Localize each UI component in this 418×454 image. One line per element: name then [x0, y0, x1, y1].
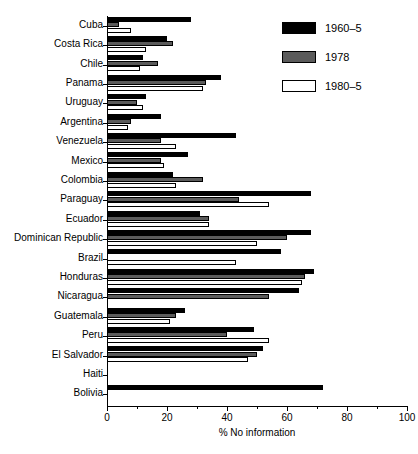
bar-group — [107, 94, 407, 113]
bar — [107, 172, 173, 177]
legend-item: 1978 — [282, 47, 362, 67]
x-minor-tick — [257, 406, 258, 409]
bar — [107, 61, 158, 66]
x-tick — [347, 406, 348, 411]
legend-swatch-icon — [282, 51, 316, 63]
bar — [107, 222, 209, 227]
bar — [107, 280, 302, 285]
chart-container: 020406080100 CubaCosta RicaChilePanamaUr… — [0, 0, 418, 454]
bar-group — [107, 16, 407, 35]
bar-group — [107, 210, 407, 229]
legend-swatch-icon — [282, 22, 316, 34]
bar — [107, 75, 221, 80]
bar — [107, 17, 191, 22]
bar — [107, 86, 203, 91]
y-axis-label-peru: Peru — [0, 329, 103, 340]
bar — [107, 274, 305, 279]
bar-group — [107, 288, 407, 307]
bar-group — [107, 55, 407, 74]
bar-group — [107, 346, 407, 365]
legend-label: 1980–5 — [325, 80, 362, 92]
x-tick-label: 0 — [87, 412, 127, 423]
x-tick-label: 80 — [327, 412, 367, 423]
legend-label: 1978 — [325, 51, 349, 63]
bar — [107, 235, 287, 240]
chart-legend: 1960–519781980–5 — [282, 18, 362, 105]
x-tick — [407, 406, 408, 411]
bar — [107, 327, 254, 332]
bar — [107, 105, 143, 110]
bar-group — [107, 385, 407, 404]
y-axis-label-nicaragua: Nicaragua — [0, 290, 103, 301]
x-minor-tick — [137, 406, 138, 409]
bar — [107, 338, 269, 343]
bar — [107, 158, 161, 163]
y-axis-label-costa-rica: Costa Rica — [0, 38, 103, 49]
bar — [107, 357, 248, 362]
y-axis-label-cuba: Cuba — [0, 19, 103, 30]
bar — [107, 269, 314, 274]
bar-group — [107, 171, 407, 190]
bar — [107, 144, 176, 149]
bar — [107, 100, 137, 105]
bar-group — [107, 229, 407, 248]
bar — [107, 216, 209, 221]
bar — [107, 66, 140, 71]
y-axis-label-chile: Chile — [0, 58, 103, 69]
bar — [107, 152, 188, 157]
y-axis-label-dominican-republic: Dominican Republic — [0, 232, 103, 243]
bar — [107, 319, 170, 324]
bar — [107, 125, 128, 130]
plot-area — [107, 16, 407, 404]
bar — [107, 133, 236, 138]
bar — [107, 94, 146, 99]
y-axis-label-venezuela: Venezuela — [0, 135, 103, 146]
bar-group — [107, 152, 407, 171]
bar-group — [107, 35, 407, 54]
bar — [107, 230, 311, 235]
x-tick — [287, 406, 288, 411]
bar — [107, 55, 143, 60]
bar — [107, 163, 164, 168]
bar — [107, 249, 281, 254]
y-axis-label-mexico: Mexico — [0, 155, 103, 166]
bar-group — [107, 132, 407, 151]
legend-swatch-icon — [282, 80, 316, 92]
bar-group — [107, 249, 407, 268]
bar — [107, 138, 161, 143]
y-axis-label-ecuador: Ecuador — [0, 213, 103, 224]
bar-group — [107, 113, 407, 132]
y-axis-label-bolivia: Bolivia — [0, 387, 103, 398]
y-axis-label-panama: Panama — [0, 77, 103, 88]
bar-group — [107, 74, 407, 93]
x-tick-label: 60 — [267, 412, 307, 423]
bar — [107, 241, 257, 246]
bar-group — [107, 326, 407, 345]
y-axis-label-colombia: Colombia — [0, 174, 103, 185]
y-axis-label-uruguay: Uruguay — [0, 96, 103, 107]
bar — [107, 352, 257, 357]
bar-group — [107, 191, 407, 210]
y-axis-label-haiti: Haiti — [0, 368, 103, 379]
bar — [107, 294, 269, 299]
y-axis-label-el-salvador: El Salvador — [0, 349, 103, 360]
bar — [107, 177, 203, 182]
bar — [107, 22, 119, 27]
bar — [107, 114, 161, 119]
bar — [107, 47, 146, 52]
bar-group — [107, 365, 407, 384]
bar — [107, 385, 323, 390]
x-minor-tick — [377, 406, 378, 409]
y-axis-label-paraguay: Paraguay — [0, 193, 103, 204]
legend-item: 1960–5 — [282, 18, 362, 38]
x-tick-label: 20 — [147, 412, 187, 423]
x-tick-label: 100 — [387, 412, 418, 423]
bar — [107, 119, 131, 124]
bar — [107, 80, 206, 85]
bar-group — [107, 307, 407, 326]
x-tick-label: 40 — [207, 412, 247, 423]
y-axis-label-guatemala: Guatemala — [0, 310, 103, 321]
bar — [107, 41, 173, 46]
x-axis-title: % No information — [107, 427, 407, 438]
x-tick — [227, 406, 228, 411]
